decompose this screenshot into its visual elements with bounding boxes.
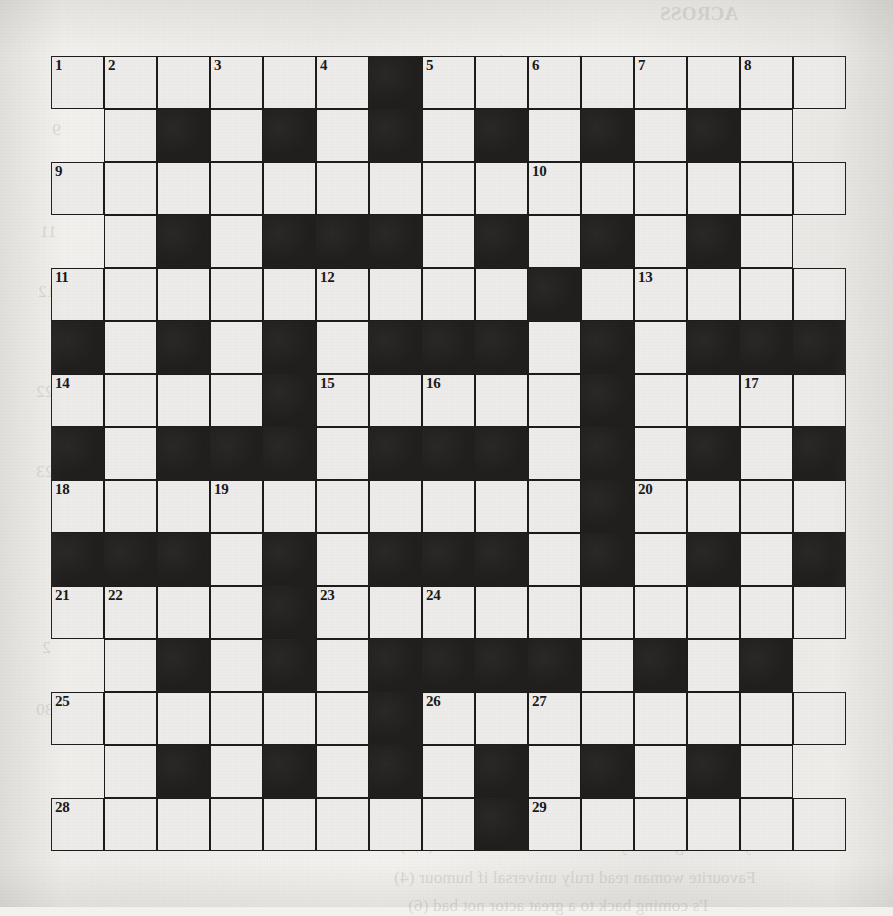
- grid-cell-entry[interactable]: [740, 533, 793, 586]
- grid-cell-entry[interactable]: 14: [51, 374, 104, 427]
- grid-cell-entry[interactable]: [740, 215, 793, 268]
- grid-cell-entry[interactable]: [316, 533, 369, 586]
- grid-cell-entry[interactable]: [581, 639, 634, 692]
- grid-cell-entry[interactable]: [369, 586, 422, 639]
- grid-cell-entry[interactable]: [740, 745, 793, 798]
- grid-cell-entry[interactable]: [263, 798, 316, 851]
- grid-cell-entry[interactable]: 17: [740, 374, 793, 427]
- grid-cell-entry[interactable]: [687, 268, 740, 321]
- grid-cell-entry[interactable]: [369, 480, 422, 533]
- grid-cell-entry[interactable]: [475, 374, 528, 427]
- grid-cell-entry[interactable]: [369, 798, 422, 851]
- grid-cell-entry[interactable]: [157, 162, 210, 215]
- grid-cell-entry[interactable]: [104, 692, 157, 745]
- grid-cell-entry[interactable]: [475, 586, 528, 639]
- grid-cell-entry[interactable]: 23: [316, 586, 369, 639]
- grid-cell-entry[interactable]: [687, 692, 740, 745]
- grid-cell-entry[interactable]: [581, 162, 634, 215]
- grid-cell-entry[interactable]: [210, 109, 263, 162]
- grid-cell-entry[interactable]: [104, 639, 157, 692]
- grid-cell-entry[interactable]: 11: [51, 268, 104, 321]
- grid-cell-entry[interactable]: [263, 692, 316, 745]
- grid-cell-entry[interactable]: [581, 692, 634, 745]
- grid-cell-entry[interactable]: [634, 374, 687, 427]
- grid-cell-entry[interactable]: [528, 215, 581, 268]
- grid-cell-entry[interactable]: [316, 798, 369, 851]
- grid-cell-entry[interactable]: [104, 268, 157, 321]
- grid-cell-entry[interactable]: 21: [51, 586, 104, 639]
- grid-cell-entry[interactable]: [104, 162, 157, 215]
- grid-cell-entry[interactable]: [528, 427, 581, 480]
- grid-cell-entry[interactable]: [740, 692, 793, 745]
- grid-cell-entry[interactable]: [263, 268, 316, 321]
- grid-cell-entry[interactable]: [104, 798, 157, 851]
- grid-cell-entry[interactable]: 26: [422, 692, 475, 745]
- grid-cell-entry[interactable]: [263, 162, 316, 215]
- grid-cell-entry[interactable]: [316, 427, 369, 480]
- grid-cell-entry[interactable]: 6: [528, 56, 581, 109]
- grid-cell-entry[interactable]: [104, 427, 157, 480]
- grid-cell-entry[interactable]: [687, 374, 740, 427]
- grid-cell-entry[interactable]: [475, 692, 528, 745]
- grid-cell-entry[interactable]: [422, 162, 475, 215]
- grid-cell-entry[interactable]: [634, 215, 687, 268]
- grid-cell-entry[interactable]: [528, 374, 581, 427]
- grid-cell-entry[interactable]: [740, 162, 793, 215]
- grid-cell-entry[interactable]: [793, 586, 846, 639]
- grid-cell-entry[interactable]: [210, 586, 263, 639]
- grid-cell-entry[interactable]: 5: [422, 56, 475, 109]
- grid-cell-entry[interactable]: 27: [528, 692, 581, 745]
- grid-cell-entry[interactable]: 7: [634, 56, 687, 109]
- grid-cell-entry[interactable]: [210, 533, 263, 586]
- grid-cell-entry[interactable]: [157, 374, 210, 427]
- grid-cell-entry[interactable]: 20: [634, 480, 687, 533]
- grid-cell-entry[interactable]: [793, 268, 846, 321]
- grid-cell-entry[interactable]: [528, 533, 581, 586]
- grid-cell-entry[interactable]: [157, 268, 210, 321]
- grid-cell-entry[interactable]: 13: [634, 268, 687, 321]
- grid-cell-entry[interactable]: [740, 586, 793, 639]
- grid-cell-entry[interactable]: [210, 162, 263, 215]
- grid-cell-entry[interactable]: 24: [422, 586, 475, 639]
- grid-cell-entry[interactable]: [316, 692, 369, 745]
- grid-cell-entry[interactable]: [316, 162, 369, 215]
- grid-cell-entry[interactable]: [793, 692, 846, 745]
- grid-cell-entry[interactable]: [210, 215, 263, 268]
- grid-cell-entry[interactable]: [740, 109, 793, 162]
- grid-cell-entry[interactable]: [157, 798, 210, 851]
- grid-cell-entry[interactable]: [263, 56, 316, 109]
- grid-cell-entry[interactable]: [422, 268, 475, 321]
- grid-cell-entry[interactable]: [210, 798, 263, 851]
- grid-cell-entry[interactable]: [263, 480, 316, 533]
- grid-cell-entry[interactable]: [740, 268, 793, 321]
- grid-cell-entry[interactable]: 28: [51, 798, 104, 851]
- grid-cell-entry[interactable]: [316, 745, 369, 798]
- grid-cell-entry[interactable]: [634, 427, 687, 480]
- grid-cell-entry[interactable]: 9: [51, 162, 104, 215]
- grid-cell-entry[interactable]: [369, 162, 422, 215]
- grid-cell-entry[interactable]: 2: [104, 56, 157, 109]
- grid-cell-entry[interactable]: [634, 109, 687, 162]
- grid-cell-entry[interactable]: [210, 692, 263, 745]
- grid-cell-entry[interactable]: [528, 586, 581, 639]
- grid-cell-entry[interactable]: [210, 745, 263, 798]
- grid-cell-entry[interactable]: [422, 109, 475, 162]
- grid-cell-entry[interactable]: [104, 215, 157, 268]
- grid-cell-entry[interactable]: [210, 321, 263, 374]
- grid-cell-entry[interactable]: [634, 692, 687, 745]
- grid-cell-entry[interactable]: [316, 480, 369, 533]
- grid-cell-entry[interactable]: [687, 639, 740, 692]
- grid-cell-entry[interactable]: [528, 745, 581, 798]
- grid-cell-entry[interactable]: [740, 427, 793, 480]
- grid-cell-entry[interactable]: [793, 480, 846, 533]
- grid-cell-entry[interactable]: 29: [528, 798, 581, 851]
- grid-cell-entry[interactable]: [634, 162, 687, 215]
- grid-cell-entry[interactable]: [422, 215, 475, 268]
- grid-cell-entry[interactable]: [104, 480, 157, 533]
- grid-cell-entry[interactable]: 4: [316, 56, 369, 109]
- grid-cell-entry[interactable]: [528, 109, 581, 162]
- grid-cell-entry[interactable]: [104, 374, 157, 427]
- grid-cell-entry[interactable]: [634, 321, 687, 374]
- grid-cell-entry[interactable]: 22: [104, 586, 157, 639]
- grid-cell-entry[interactable]: [793, 374, 846, 427]
